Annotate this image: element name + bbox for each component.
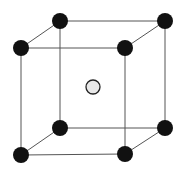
corner-atom-back-bottom-left — [52, 120, 68, 136]
center-atom-group — [86, 80, 100, 94]
corner-atom-front-bottom-right — [117, 146, 133, 162]
corner-atom-front-bottom-left — [13, 147, 29, 163]
corner-atom-front-top-right — [117, 40, 133, 56]
corner-atom-back-top-left — [52, 13, 68, 29]
corner-atom-back-bottom-right — [157, 120, 173, 136]
body-center-atom — [86, 80, 100, 94]
corner-atom-back-top-right — [157, 13, 173, 29]
corner-atom-front-top-left — [13, 40, 29, 56]
cube-edge — [21, 154, 125, 155]
bcc-unit-cell-diagram — [0, 0, 185, 169]
